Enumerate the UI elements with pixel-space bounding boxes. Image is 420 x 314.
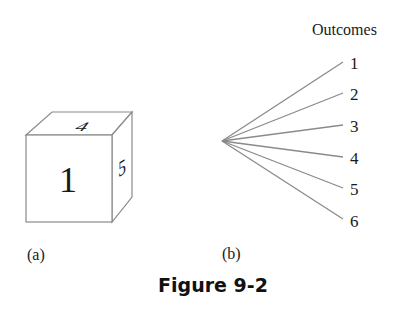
figure-caption: Figure 9-2 bbox=[158, 274, 268, 296]
outcome-branches bbox=[222, 62, 343, 219]
panel-b-label: (b) bbox=[222, 245, 241, 263]
outcome-label-2: 2 bbox=[350, 85, 359, 104]
die-right-number: 5 bbox=[118, 153, 126, 182]
outcome-label-3: 3 bbox=[350, 117, 359, 136]
die-front-number: 1 bbox=[59, 160, 77, 200]
figure-canvas: 1 4 5 (a) Outcomes 1 2 3 4 5 6 (b) Figur… bbox=[0, 0, 420, 314]
outcome-label-6: 6 bbox=[350, 212, 359, 231]
branch-line-5 bbox=[222, 141, 343, 188]
panel-a-label: (a) bbox=[27, 246, 45, 264]
branch-line-3 bbox=[222, 125, 343, 141]
outcome-label-1: 1 bbox=[350, 54, 359, 73]
outcome-labels: 1 2 3 4 5 6 bbox=[350, 54, 359, 231]
branch-line-1 bbox=[222, 62, 343, 141]
outcome-label-5: 5 bbox=[350, 180, 359, 199]
outcomes-header: Outcomes bbox=[312, 21, 377, 38]
branch-line-6 bbox=[222, 141, 343, 219]
branch-line-2 bbox=[222, 93, 343, 141]
branch-line-4 bbox=[222, 141, 343, 157]
die-illustration: 1 4 5 bbox=[26, 112, 132, 222]
outcome-label-4: 4 bbox=[350, 149, 359, 168]
